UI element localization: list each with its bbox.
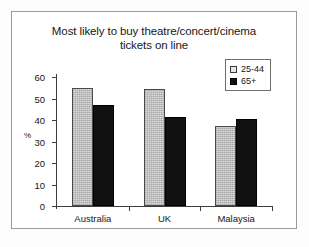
x-category-label-malaysia: Malaysia xyxy=(217,213,255,224)
y-tick-50 xyxy=(52,99,57,100)
legend-swatch-25-44-icon xyxy=(230,66,237,73)
x-category-label-australia: Australia xyxy=(74,213,111,224)
bar-group-uk xyxy=(144,77,186,206)
y-tick-label-30: 30 xyxy=(34,136,45,147)
y-tick-40 xyxy=(52,120,57,121)
legend-item-1: 65+ xyxy=(230,75,264,87)
bar-group-australia xyxy=(72,77,114,206)
y-tick-60 xyxy=(52,77,57,78)
y-tick-label-0: 0 xyxy=(40,201,45,212)
y-tick-label-60: 60 xyxy=(34,72,45,83)
bar-group-malaysia xyxy=(215,77,257,206)
y-tick-label-10: 10 xyxy=(34,179,45,190)
y-tick-10 xyxy=(52,185,57,186)
bar-malaysia-2544 xyxy=(215,126,236,206)
chart-title: Most likely to buy theatre/concert/cinem… xyxy=(24,24,284,52)
x-axis-line xyxy=(56,206,272,207)
y-tick-label-40: 40 xyxy=(34,115,45,126)
x-separator-2 xyxy=(200,206,201,211)
chart-legend: 25-44 65+ xyxy=(225,59,271,91)
bar-australia-2544 xyxy=(72,88,93,206)
y-tick-30 xyxy=(52,142,57,143)
y-tick-label-20: 20 xyxy=(34,158,45,169)
y-tick-0 xyxy=(52,206,57,207)
bar-uk-2544 xyxy=(144,89,165,206)
bar-australia-65 xyxy=(93,105,114,206)
x-category-label-uk: UK xyxy=(158,213,171,224)
figure: Most likely to buy theatre/concert/cinem… xyxy=(0,0,309,247)
y-tick-20 xyxy=(52,163,57,164)
bar-uk-65 xyxy=(165,117,186,206)
plot-area: 0102030405060 AustraliaUKMalaysia xyxy=(57,77,272,206)
legend-label-1: 65+ xyxy=(241,76,256,86)
legend-item-0: 25-44 xyxy=(230,63,264,75)
y-axis-label: % xyxy=(24,131,31,140)
bar-malaysia-65 xyxy=(236,119,257,206)
legend-swatch-65plus-icon xyxy=(230,78,237,85)
y-tick-label-50: 50 xyxy=(34,93,45,104)
x-separator-1 xyxy=(129,206,130,211)
legend-label-0: 25-44 xyxy=(241,64,264,74)
x-separator-end xyxy=(272,206,273,211)
